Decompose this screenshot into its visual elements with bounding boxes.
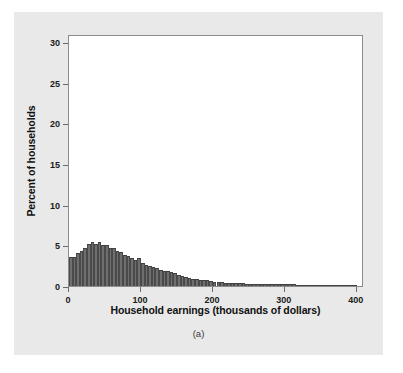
x-axis-tick [284,287,285,292]
x-axis-tick [212,287,213,292]
y-axis-tick [63,84,68,85]
y-axis-tick [63,246,68,247]
y-axis-tick-label: 10 [50,201,60,211]
plot-frame [68,35,363,287]
figure-caption: (a) [14,328,383,339]
y-axis-tick-label: 20 [50,119,60,129]
x-axis-tick [68,287,69,292]
y-axis-tick-label: 30 [50,38,60,48]
y-axis-tick [63,165,68,166]
histogram-bar [353,285,357,286]
y-axis-tick [63,43,68,44]
y-axis-tick-label: 0 [55,282,60,292]
y-axis-tick [63,206,68,207]
y-axis-tick [63,124,68,125]
histogram-bars [69,36,362,286]
x-axis-tick [140,287,141,292]
x-axis-title: Household earnings (thousands of dollars… [68,304,363,316]
figure-panel: 051015202530 0100200300400 Percent of ho… [14,12,383,355]
y-axis-title: Percent of households [24,35,38,287]
plot-area [69,36,362,286]
x-axis-tick [356,287,357,292]
y-axis-tick-label: 5 [55,241,60,251]
y-axis-tick-label: 25 [50,79,60,89]
y-axis-tick-label: 15 [50,160,60,170]
